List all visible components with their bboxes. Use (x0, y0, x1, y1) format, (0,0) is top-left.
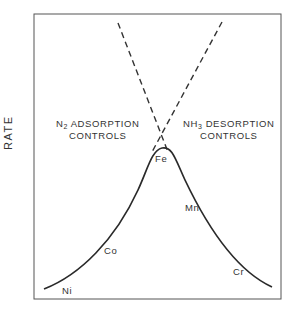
desorption-region-label: NH3 DESORPTION CONTROLS (183, 118, 274, 141)
subscript-2: 2 (63, 123, 68, 130)
adsorption-region-label: N2 ADSORPTION CONTROLS (56, 118, 140, 141)
fe-label: Fe (155, 153, 167, 164)
ni-label: Ni (62, 285, 72, 296)
cr-label: Cr (233, 266, 244, 277)
adsorption-text: ADSORPTION (68, 118, 140, 129)
volcano-diagram (0, 0, 294, 315)
nh-text: NH (183, 118, 198, 129)
desorption-text: DESORPTION (202, 118, 274, 129)
co-label: Co (104, 245, 117, 256)
subscript-3: 3 (198, 123, 203, 130)
y-axis-label: RATE (2, 115, 14, 150)
mn-label: Mn (185, 202, 199, 213)
controls-text-right: CONTROLS (183, 130, 274, 141)
controls-text-left: CONTROLS (56, 130, 140, 141)
